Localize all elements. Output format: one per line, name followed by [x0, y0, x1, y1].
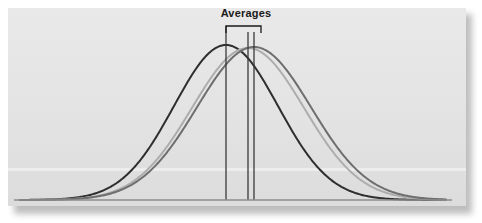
curve-curve-1 [20, 45, 446, 200]
curve-curve-3 [20, 47, 446, 200]
bracket-path [226, 26, 261, 33]
averages-label: Averages [204, 7, 288, 20]
distribution-plot [0, 0, 482, 223]
distribution-figure: Averages [0, 0, 482, 223]
averages-bracket [226, 26, 261, 33]
curve-curve-2 [20, 48, 446, 200]
curves-group [20, 45, 446, 200]
